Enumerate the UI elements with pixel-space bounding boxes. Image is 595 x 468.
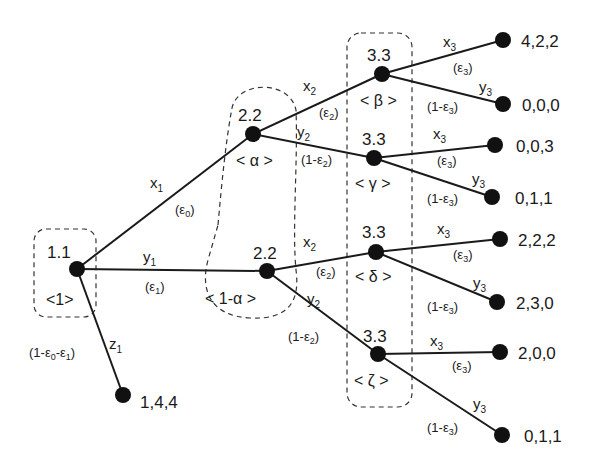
edge-x3-delta — [376, 239, 500, 252]
prob-label-y3: (1-ε3) — [427, 99, 458, 116]
payoff-label: 0,0,0 — [522, 96, 560, 115]
terminal-node — [484, 189, 500, 205]
action-label-x1: x1 — [150, 174, 164, 194]
action-label-y2: y2 — [307, 290, 321, 310]
prob-label-y2: (1-ε2) — [288, 329, 319, 346]
belief-label: < ζ > — [354, 372, 389, 390]
payoff-label: 2,2,2 — [518, 231, 556, 250]
game-tree-diagram: 1.1 <1> 2.2 < α > 2.2 < 1-α > 3.3 < β > … — [0, 0, 595, 468]
node-label: 1.1 — [47, 243, 71, 262]
prob-label-y3: (1-ε3) — [427, 191, 458, 208]
payoff-label: 4,2,2 — [521, 32, 559, 51]
belief-label: < γ > — [355, 175, 391, 192]
prob-label-y3: (1-ε3) — [427, 420, 458, 437]
node-player3-delta — [368, 244, 384, 260]
node-label: 3.3 — [362, 223, 386, 242]
payoff-label: 2,3,0 — [516, 294, 554, 313]
action-label-y3: y3 — [473, 395, 487, 415]
prob-label-x3: (ε3) — [452, 358, 471, 375]
action-label-x2: x2 — [303, 77, 317, 97]
terminal-node — [494, 427, 510, 443]
edge-x1 — [77, 134, 253, 269]
action-label-y1: y1 — [143, 248, 157, 268]
prob-label-y2: (1-ε2) — [301, 152, 332, 169]
terminal-node — [495, 96, 511, 112]
payoff-label: 0,1,1 — [515, 189, 553, 208]
belief-label: < β > — [360, 92, 397, 109]
prob-label-y3: (1-ε3) — [427, 299, 458, 316]
node-player3-zeta — [370, 346, 386, 362]
belief-label: <1> — [46, 291, 74, 308]
belief-label: < 1-α > — [205, 290, 256, 307]
action-label-y3: y3 — [473, 274, 487, 294]
node-label: 3.3 — [362, 130, 386, 149]
action-label-x3: x3 — [437, 220, 451, 240]
payoff-label: 0,1,1 — [524, 427, 562, 446]
terminal-node — [115, 387, 131, 403]
payoff-label: 0,0,3 — [516, 137, 554, 156]
action-label-y3: y3 — [472, 170, 486, 190]
node-label: 2.2 — [253, 244, 277, 263]
prob-label-x2: (ε2) — [319, 105, 338, 122]
terminal-node — [487, 137, 503, 153]
node-label: 3.3 — [367, 46, 391, 65]
payoff-label: 2,0,0 — [518, 344, 556, 363]
node-player3-gamma — [366, 150, 382, 166]
edge-x3-gamma — [374, 145, 495, 158]
prob-label-x3: (ε3) — [453, 60, 472, 77]
node-player3-beta — [374, 66, 390, 82]
terminal-node — [495, 32, 511, 48]
game-tree-svg: 1.1 <1> 2.2 < α > 2.2 < 1-α > 3.3 < β > … — [0, 0, 595, 468]
prob-label-z1: (1-ε0-ε1) — [29, 345, 75, 362]
node-player1 — [69, 261, 85, 277]
edge-z1 — [77, 269, 123, 395]
action-label-y3: y3 — [479, 78, 493, 98]
node-player2-alpha — [245, 126, 261, 142]
node-label: 3.3 — [363, 327, 387, 346]
terminal-node — [489, 294, 505, 310]
prob-label-x3: (ε3) — [453, 247, 472, 264]
prob-label-x3: (ε3) — [437, 153, 456, 170]
belief-label: < δ > — [355, 268, 391, 285]
action-label-x3: x3 — [433, 125, 447, 145]
terminal-node — [492, 344, 508, 360]
prob-label-y1: (ε1) — [145, 279, 164, 296]
prob-label-x1: (ε0) — [175, 202, 194, 219]
edge-y1 — [77, 269, 267, 271]
action-label-x2: x2 — [303, 233, 317, 253]
payoff-label: 1,4,4 — [140, 393, 178, 412]
terminal-node — [492, 231, 508, 247]
belief-label: < α > — [236, 152, 273, 169]
action-label-z1: z1 — [109, 335, 123, 355]
edge-x3-zeta — [378, 352, 500, 354]
node-label: 2.2 — [238, 106, 262, 125]
action-label-y2: y2 — [297, 123, 311, 143]
prob-label-x2: (ε2) — [316, 264, 335, 281]
action-label-x3: x3 — [443, 33, 457, 53]
node-player2-1-alpha — [259, 263, 275, 279]
action-label-x3: x3 — [430, 332, 444, 352]
